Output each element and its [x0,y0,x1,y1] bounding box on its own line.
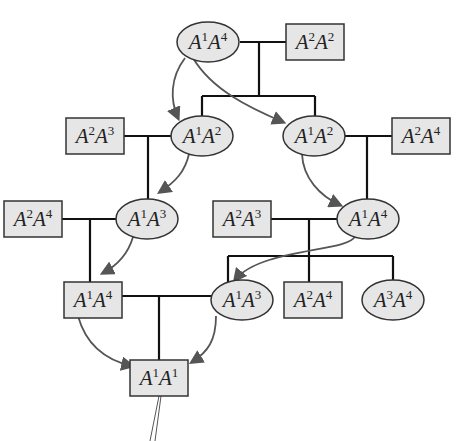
female-node-g2_left: A1A2 [171,116,233,156]
male-node-g4_left: A1A4 [64,282,122,318]
arrow-g1-to-g2-left [173,58,185,118]
arrow-g2-left-to-g3-left [160,154,189,192]
female-node-g1_female: A1A4 [177,22,239,62]
arrow-g3-right-to-g4-mid [235,236,355,280]
arrow-g2-right-to-g3-right [302,154,340,205]
male-node-g5_child: A1A1 [130,360,188,396]
arrow-g4-mid-to-g5 [192,316,216,362]
arrow-g1-to-g2-right [193,58,283,122]
arrow-g3-left-to-g4-left [103,237,133,273]
male-node-g2_right_mate: A2A4 [392,118,450,154]
male-node-g4_mid_male: A2A4 [284,282,342,318]
pedigree-nodes: A1A4A2A2A2A3A1A2A1A2A2A4A2A4A1A3A2A3A1A4… [4,22,450,396]
female-node-g4_right: A3A4 [362,280,424,320]
male-node-g2_left_mate: A2A3 [66,118,124,154]
female-node-g4_mid_female: A1A3 [211,280,273,320]
arrow-g4-left-to-g5 [78,316,132,366]
callout-pointer [150,396,161,441]
pedigree-diagram: A1A4A2A2A2A3A1A2A1A2A2A4A2A4A1A3A2A3A1A4… [0,0,462,441]
female-node-g3_left: A1A3 [116,199,178,239]
female-node-g2_right: A1A2 [283,116,345,156]
male-node-g1_male: A2A2 [286,24,344,60]
male-node-g3_left_mate: A2A4 [4,201,62,237]
male-node-g3_right_mate: A2A3 [213,201,271,237]
female-node-g3_right: A1A4 [337,199,399,239]
